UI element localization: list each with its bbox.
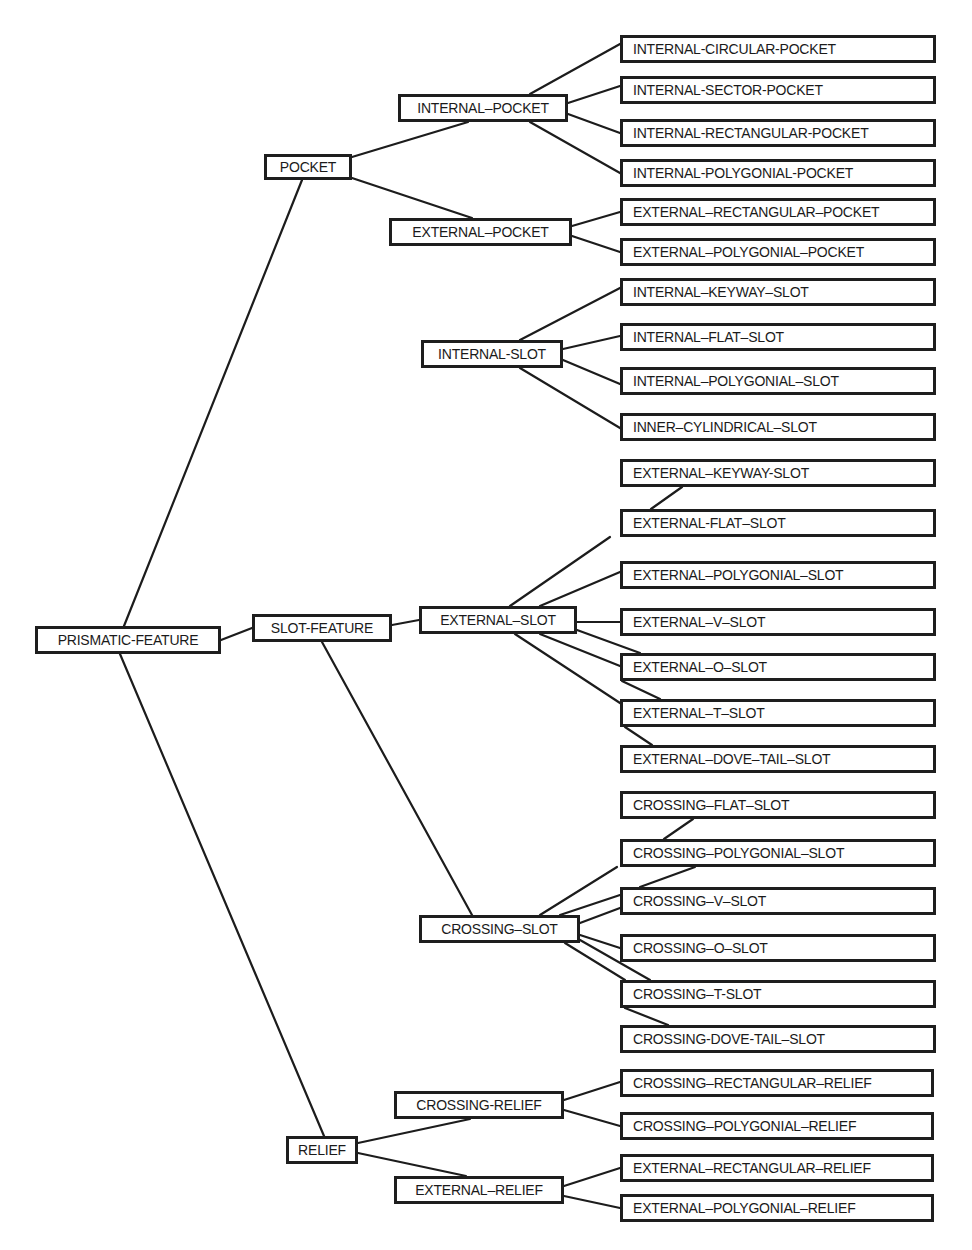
edge-internal-slot-to-internal-polygonial-slot xyxy=(563,360,620,384)
node-label: EXTERNAL–POLYGONIAL–SLOT xyxy=(633,568,843,582)
edge-crossing-slot-to-crossing-v-slot-a xyxy=(640,867,695,887)
node-label: EXTERNAL–RECTANGULAR–POCKET xyxy=(633,205,879,219)
edge-external-o-slot-to-external-t-slot xyxy=(622,681,660,699)
node-label: INTERNAL–KEYWAY–SLOT xyxy=(633,285,809,299)
node-label: CROSSING–SLOT xyxy=(441,922,557,936)
node-label: RELIEF xyxy=(298,1143,346,1157)
edge-external-slot-to-external-flat-slot xyxy=(510,537,610,606)
node-external-polygonial-slot: EXTERNAL–POLYGONIAL–SLOT xyxy=(620,561,936,589)
node-internal-rectangular-pocket: INTERNAL-RECTANGULAR-POCKET xyxy=(620,119,936,147)
edge-crossing-slot-to-crossing-flat-slot xyxy=(664,819,693,839)
node-external-rectangular-relief: EXTERNAL–RECTANGULAR–RELIEF xyxy=(620,1154,934,1182)
node-label: CROSSING–T-SLOT xyxy=(633,987,761,1001)
edge-internal-slot-to-internal-flat-slot xyxy=(563,336,620,349)
node-label: INTERNAL–POLYGONIAL–SLOT xyxy=(633,374,839,388)
edge-external-slot-to-external-keyway-slot xyxy=(651,487,682,509)
node-internal-polygonial-slot: INTERNAL–POLYGONIAL–SLOT xyxy=(620,367,936,395)
node-label: CROSSING–POLYGONIAL–RELIEF xyxy=(633,1119,856,1133)
edge-external-slot-to-external-o-slot-2 xyxy=(540,634,620,666)
node-label: EXTERNAL-FLAT–SLOT xyxy=(633,516,786,530)
node-external-polygonial-relief: EXTERNAL–POLYGONIAL–RELIEF xyxy=(620,1194,934,1222)
node-label: CROSSING-RELIEF xyxy=(416,1098,541,1112)
node-internal-keyway-slot: INTERNAL–KEYWAY–SLOT xyxy=(620,278,936,306)
node-crossing-polygonial-slot: CROSSING–POLYGONIAL–SLOT xyxy=(620,839,936,867)
node-label: INNER–CYLINDRICAL–SLOT xyxy=(633,420,817,434)
node-label: PRISMATIC-FEATURE xyxy=(58,633,199,647)
node-external-flat-slot: EXTERNAL-FLAT–SLOT xyxy=(620,509,936,537)
node-internal-polygonial-pocket: INTERNAL-POLYGONIAL-POCKET xyxy=(620,159,936,187)
edge-internal-pocket-to-internal-rectangular-pocket xyxy=(568,114,620,133)
edge-internal-pocket-to-internal-circular-pocket xyxy=(530,44,620,94)
node-label: EXTERNAL–V–SLOT xyxy=(633,615,765,629)
node-label: EXTERNAL–KEYWAY-SLOT xyxy=(633,466,809,480)
node-crossing-dove-tail-slot: CROSSING-DOVE-TAIL–SLOT xyxy=(620,1025,936,1053)
node-label: SLOT-FEATURE xyxy=(271,621,373,635)
edge-pocket-to-internal-pocket xyxy=(352,122,468,157)
node-label: CROSSING–POLYGONIAL–SLOT xyxy=(633,846,844,860)
node-crossing-flat-slot: CROSSING–FLAT–SLOT xyxy=(620,791,936,819)
node-external-o-slot: EXTERNAL–O–SLOT xyxy=(620,653,936,681)
edge-prismatic-feature-to-slot-feature xyxy=(221,628,252,640)
node-external-slot: EXTERNAL–SLOT xyxy=(419,606,577,634)
node-prismatic-feature: PRISMATIC-FEATURE xyxy=(35,626,221,654)
node-external-t-slot: EXTERNAL–T–SLOT xyxy=(620,699,936,727)
node-external-relief: EXTERNAL–RELIEF xyxy=(394,1176,564,1204)
node-external-v-slot: EXTERNAL–V–SLOT xyxy=(620,608,936,636)
edge-crossing-t-slot-to-crossing-dove-tail-slot xyxy=(625,1008,668,1025)
node-label: EXTERNAL–DOVE–TAIL–SLOT xyxy=(633,752,830,766)
edge-crossing-relief-to-crossing-rectangular-relief xyxy=(564,1082,620,1100)
node-crossing-rectangular-relief: CROSSING–RECTANGULAR–RELIEF xyxy=(620,1069,934,1097)
node-pocket: POCKET xyxy=(264,154,352,180)
node-label: EXTERNAL–RELIEF xyxy=(415,1183,543,1197)
edge-internal-pocket-to-internal-polygonial-pocket xyxy=(530,122,620,173)
edge-prismatic-feature-to-relief xyxy=(120,654,324,1136)
node-label: EXTERNAL–POLYGONIAL–POCKET xyxy=(633,245,864,259)
edge-relief-to-crossing-relief xyxy=(358,1119,470,1143)
edge-pocket-to-external-pocket xyxy=(352,178,472,218)
node-label: EXTERNAL–SLOT xyxy=(440,613,556,627)
node-label: CROSSING–V–SLOT xyxy=(633,894,766,908)
node-crossing-relief: CROSSING-RELIEF xyxy=(394,1091,564,1119)
node-label: CROSSING–O–SLOT xyxy=(633,941,768,955)
edge-crossing-slot-to-crossing-o-slot xyxy=(580,935,620,948)
node-internal-sector-pocket: INTERNAL-SECTOR-POCKET xyxy=(620,76,936,104)
node-crossing-polygonial-relief: CROSSING–POLYGONIAL–RELIEF xyxy=(620,1112,934,1140)
node-label: EXTERNAL–POCKET xyxy=(412,225,548,239)
node-label: POCKET xyxy=(280,160,336,174)
node-label: CROSSING–RECTANGULAR–RELIEF xyxy=(633,1076,872,1090)
node-relief: RELIEF xyxy=(286,1136,358,1164)
node-label: EXTERNAL–T–SLOT xyxy=(633,706,765,720)
node-label: INTERNAL-SECTOR-POCKET xyxy=(633,83,823,97)
edge-crossing-relief-to-crossing-polygonial-relief xyxy=(564,1110,620,1126)
edge-crossing-slot-to-crossing-v-slot-b xyxy=(580,908,620,923)
node-internal-circular-pocket: INTERNAL-CIRCULAR-POCKET xyxy=(620,35,936,63)
node-crossing-v-slot: CROSSING–V–SLOT xyxy=(620,887,936,915)
edge-external-pocket-to-external-polygonial-pocket xyxy=(572,236,620,252)
node-label: EXTERNAL–RECTANGULAR–RELIEF xyxy=(633,1161,871,1175)
node-external-pocket: EXTERNAL–POCKET xyxy=(389,218,572,246)
edge-internal-slot-to-internal-keyway-slot xyxy=(520,288,620,340)
node-crossing-t-slot: CROSSING–T-SLOT xyxy=(620,980,936,1008)
node-slot-feature: SLOT-FEATURE xyxy=(252,614,392,642)
feature-taxonomy-diagram: PRISMATIC-FEATUREPOCKETSLOT-FEATURERELIE… xyxy=(0,0,972,1250)
node-label: INTERNAL–POCKET xyxy=(417,101,549,115)
node-external-rectangular-pocket: EXTERNAL–RECTANGULAR–POCKET xyxy=(620,198,936,226)
node-external-dove-tail-slot: EXTERNAL–DOVE–TAIL–SLOT xyxy=(620,745,936,773)
node-internal-pocket: INTERNAL–POCKET xyxy=(398,94,568,122)
node-label: CROSSING–FLAT–SLOT xyxy=(633,798,789,812)
node-label: INTERNAL-POLYGONIAL-POCKET xyxy=(633,166,853,180)
edge-external-relief-to-external-rectangular-relief xyxy=(564,1168,620,1186)
edge-external-t-slot-to-external-dove-tail-slot xyxy=(625,727,652,745)
node-label: INTERNAL-RECTANGULAR-POCKET xyxy=(633,126,868,140)
edge-slot-feature-to-crossing-slot xyxy=(322,642,472,915)
edge-internal-pocket-to-internal-sector-pocket xyxy=(568,86,620,103)
edge-prismatic-feature-to-pocket xyxy=(124,180,302,626)
node-label: EXTERNAL–O–SLOT xyxy=(633,660,767,674)
edge-external-relief-to-external-polygonial-relief xyxy=(564,1196,620,1208)
node-external-polygonial-pocket: EXTERNAL–POLYGONIAL–POCKET xyxy=(620,238,936,266)
node-inner-cylindrical-slot: INNER–CYLINDRICAL–SLOT xyxy=(620,413,936,441)
node-internal-flat-slot: INTERNAL–FLAT–SLOT xyxy=(620,323,936,351)
node-external-keyway-slot: EXTERNAL–KEYWAY-SLOT xyxy=(620,459,936,487)
node-crossing-o-slot: CROSSING–O–SLOT xyxy=(620,934,936,962)
node-label: CROSSING-DOVE-TAIL–SLOT xyxy=(633,1032,825,1046)
